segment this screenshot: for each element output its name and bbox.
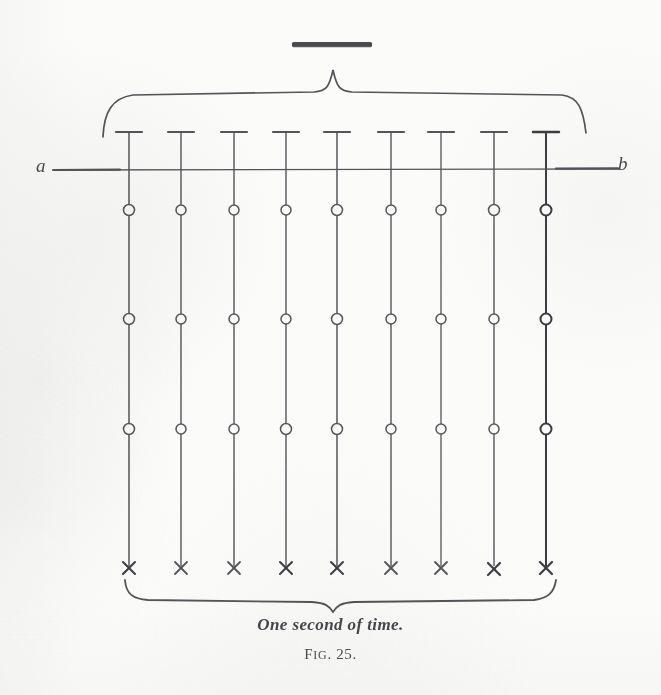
- lower-brace: [125, 580, 556, 612]
- circle-node: [541, 424, 552, 435]
- circle-node: [176, 314, 186, 324]
- column-group: [116, 132, 559, 566]
- circle-node: [436, 314, 446, 324]
- figure-page: a b One second of time. FIG. 25.: [0, 0, 661, 695]
- circle-node: [489, 205, 500, 216]
- circle-node: [124, 314, 135, 325]
- circle-node: [332, 314, 343, 325]
- figure-number-smallcaps: IG: [313, 648, 327, 662]
- figure-number-initial: F: [304, 646, 313, 662]
- column-6: [378, 132, 404, 566]
- circle-node: [436, 424, 446, 434]
- column-9: [533, 132, 559, 566]
- circle-node: [386, 424, 396, 434]
- circle-node-row-1: [124, 205, 552, 216]
- circle-node: [386, 314, 396, 324]
- solid-rule-group: [292, 42, 372, 48]
- circle-node: [541, 205, 552, 216]
- circle-node: [332, 424, 343, 435]
- upper-brace: [103, 70, 586, 137]
- circle-node: [124, 424, 135, 435]
- circle-node: [229, 424, 239, 434]
- column-7: [428, 132, 454, 566]
- circle-node: [124, 205, 135, 216]
- axis-label-b: b: [618, 153, 628, 175]
- circle-node: [229, 314, 239, 324]
- solid-rule-shadow: [293, 46, 371, 47]
- lower-brace-group: [125, 580, 556, 612]
- circle-node-row-3: [124, 424, 552, 435]
- axis-label-a: a: [36, 155, 46, 177]
- circle-node: [436, 205, 446, 215]
- circle-node: [176, 205, 186, 215]
- circle-node: [176, 424, 186, 434]
- column-1: [116, 132, 142, 566]
- circle-node: [541, 314, 552, 325]
- circle-node: [229, 205, 239, 215]
- circle-node: [281, 424, 292, 435]
- circle-node: [489, 424, 499, 434]
- axis-line-group: [52, 168, 620, 170]
- figure-number-suffix: . 25.: [327, 646, 356, 662]
- circle-node: [332, 205, 343, 216]
- figure-diagram: [0, 0, 661, 695]
- upper-brace-group: [103, 70, 586, 137]
- column-5: [324, 132, 350, 566]
- figure-caption: One second of time.: [0, 615, 661, 635]
- column-4: [273, 132, 299, 566]
- circle-node: [489, 314, 499, 324]
- column-8: [481, 132, 507, 566]
- circle-node-row-2: [124, 314, 552, 325]
- column-3: [221, 132, 247, 566]
- axis-line-ab: [52, 169, 620, 170]
- circle-node: [386, 205, 396, 215]
- circle-node: [281, 205, 291, 215]
- figure-number: FIG. 25.: [0, 646, 661, 663]
- column-2: [168, 132, 194, 566]
- circle-node: [281, 314, 291, 324]
